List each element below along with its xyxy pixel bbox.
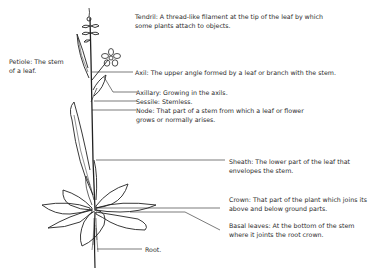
label-axillary: Axillary: Growing in the axils. [136,88,228,97]
flower [102,49,121,67]
label-tendril: Tendril: A thread-like filament at the t… [135,12,323,30]
petiole-text-1: Petiole: The stem [9,57,64,66]
label-sessile: Sessile: Stemless. [136,97,193,106]
root [95,212,96,268]
axillary-text: Axillary: Growing in the axils. [136,88,228,97]
crown-text-2: above and below ground parts. [229,204,367,213]
basal-text-2: where it joints the root crown. [229,230,355,239]
sheath-text-2: envelopes the stem. [229,166,350,175]
label-basal-leaves: Basal leaves: At the bottom of the stem … [229,221,355,239]
label-node: Node: That part of a stem from which a l… [136,106,304,124]
main-stem [90,18,95,210]
crown-text-1: Crown: That part of the plant which join… [229,195,367,204]
label-axil: Axil: The upper angle formed by a leaf o… [135,68,336,77]
petiole-text-2: of a leaf. [9,66,64,75]
basal-text-1: Basal leaves: At the bottom of the stem [229,221,355,230]
sessile-text: Sessile: Stemless. [136,97,193,106]
label-sheath: Sheath: The lower part of the leaf that … [229,157,350,175]
sheath-text-1: Sheath: The lower part of the leaf that [229,157,350,166]
node-text-2: grows or normally arises. [136,115,304,124]
tendril-text-2: some plants attach to objects. [135,21,323,30]
tendril-text-1: Tendril: A thread-like filament at the t… [135,12,323,21]
label-petiole: Petiole: The stem of a leaf. [9,57,64,75]
axil-text: Axil: The upper angle formed by a leaf o… [135,68,336,77]
node-text-1: Node: That part of a stem from which a l… [136,106,304,115]
root-text: Root. [145,245,161,254]
label-root: Root. [145,245,161,254]
label-crown: Crown: That part of the plant which join… [229,195,367,213]
